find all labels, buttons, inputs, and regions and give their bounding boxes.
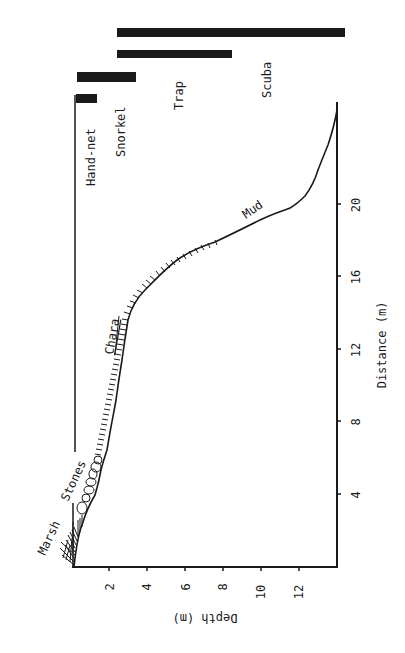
distance-tick-8: 8	[349, 418, 363, 425]
depth-tick-10: 10	[254, 585, 268, 599]
distance-axis-title: Distance (m)	[375, 302, 389, 389]
distance-tick-16: 16	[349, 270, 363, 284]
depth-tick-12: 12	[292, 585, 306, 599]
depth-ticks: 2 4 6 8 10 12	[103, 567, 306, 599]
stones-label: Stones	[58, 458, 89, 503]
distance-tick-12: 12	[349, 343, 363, 357]
depth-tick-2: 2	[103, 583, 117, 590]
depth-axis-title: Depth (m)	[172, 611, 237, 625]
distance-tick-20: 20	[349, 198, 363, 212]
mud-label: Mud	[240, 198, 266, 222]
marsh-label: Marsh	[35, 519, 63, 558]
scuba-label: Scuba	[260, 62, 274, 98]
distance-ticks: 4 8 12 16 20	[337, 198, 363, 499]
trap-bar	[117, 50, 232, 58]
scuba-bar	[117, 28, 345, 37]
trap-label: Trap	[172, 81, 186, 110]
snorkel-bar	[77, 72, 136, 82]
snorkel-label: Snorkel	[114, 106, 128, 157]
marsh-vegetation	[60, 515, 82, 565]
hand-net-label: Hand-net	[84, 128, 98, 186]
depth-tick-8: 8	[216, 583, 230, 590]
distance-tick-4: 4	[349, 491, 363, 498]
sampling-method-bars	[76, 28, 345, 103]
hand-net-bar	[76, 94, 97, 103]
depth-tick-6: 6	[179, 583, 193, 590]
lake-profile-chart: Hand-net Snorkel Trap Scuba 2 4 6 8 10 1…	[0, 0, 405, 653]
depth-tick-4: 4	[140, 583, 154, 590]
